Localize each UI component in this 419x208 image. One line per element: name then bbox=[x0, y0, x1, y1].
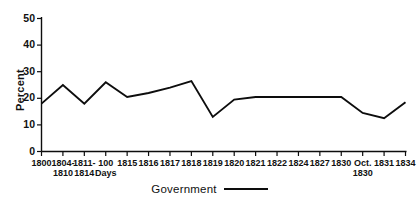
chart-legend: Government bbox=[0, 183, 419, 195]
x-axis-tick-label: 1834 bbox=[384, 158, 419, 169]
legend-label-government: Government bbox=[151, 183, 216, 195]
series-line-government bbox=[42, 81, 406, 118]
line-chart: Percent 50403020100 18001804-18101811-18… bbox=[0, 0, 419, 208]
legend-line-swatch bbox=[224, 188, 268, 190]
